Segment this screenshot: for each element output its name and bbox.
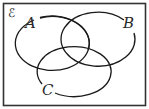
set-a-label: A: [23, 14, 36, 32]
universal-set-label: ℰ: [8, 6, 15, 20]
set-b-label: B: [122, 14, 134, 32]
set-a-outline-upper: [40, 16, 89, 50]
set-c-label: C: [42, 81, 54, 99]
venn-diagram: ℰ A B C: [0, 0, 149, 109]
